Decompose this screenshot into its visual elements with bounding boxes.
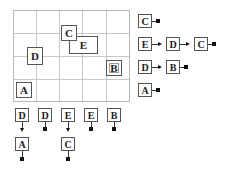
row4-node-a: A <box>138 83 152 97</box>
arrow-down-icon <box>20 128 24 132</box>
region-b: B <box>106 60 122 76</box>
arrow-down-icon <box>66 128 70 132</box>
row2-node-e: E <box>138 37 152 51</box>
row2-node-c: C <box>194 37 208 51</box>
region-d: D <box>27 47 43 65</box>
col1-node-d: D <box>15 108 29 122</box>
region-c: C <box>61 25 77 41</box>
null-terminator-icon <box>156 88 160 92</box>
grid-line <box>14 79 129 80</box>
null-terminator-icon <box>89 127 93 131</box>
null-terminator-icon <box>43 127 47 131</box>
null-terminator-icon <box>20 157 24 161</box>
region-a: A <box>16 82 32 98</box>
row3-node-d: D <box>138 60 152 74</box>
row1-node-c: C <box>138 14 152 28</box>
col2-node-d: D <box>38 108 52 122</box>
arrow-right-icon <box>186 42 190 46</box>
null-terminator-icon <box>66 157 70 161</box>
col5-node-b: B <box>107 108 121 122</box>
null-terminator-icon <box>112 127 116 131</box>
col1-node-a: A <box>15 137 29 151</box>
col3-node-e: E <box>61 108 75 122</box>
null-terminator-icon <box>212 42 216 46</box>
null-terminator-icon <box>156 19 160 23</box>
arrow-right-icon <box>158 65 162 69</box>
col4-node-e: E <box>84 108 98 122</box>
arrow-right-icon <box>158 42 162 46</box>
col3-node-c: C <box>61 137 75 151</box>
row2-node-d: D <box>166 37 180 51</box>
null-terminator-icon <box>184 65 188 69</box>
row3-node-b: B <box>166 60 180 74</box>
